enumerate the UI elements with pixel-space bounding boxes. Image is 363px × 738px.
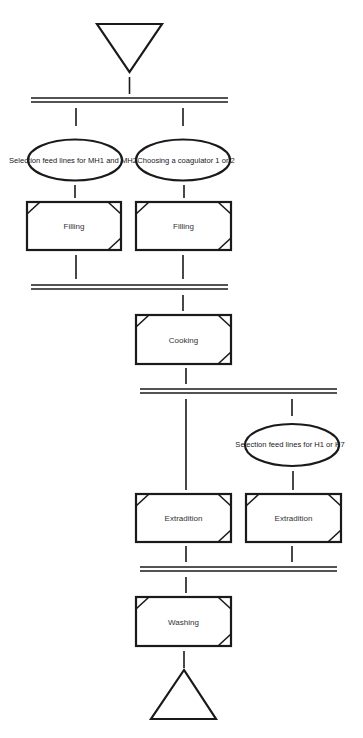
parallel-split-bar-1: [31, 98, 228, 102]
process-flow-diagram: Selection feed lines for MH1 and MH2 Cho…: [0, 0, 363, 738]
start-triangle-icon: [97, 24, 162, 72]
step-box-washing: Washing: [136, 597, 231, 646]
step-label-filling-2: Filling: [173, 222, 194, 231]
step-box-extradition-1: Extradition: [136, 494, 231, 542]
ellipse-label-h: Selection feed lines for H1 or H7: [235, 440, 344, 449]
parallel-join-bar-4: [140, 567, 337, 571]
parallel-join-bar-2: [31, 285, 228, 289]
step-label-washing: Washing: [168, 618, 199, 627]
step-label-filling-1: Filling: [64, 222, 85, 231]
step-label-extradition-1: Extradition: [165, 514, 203, 523]
ellipse-label-coagulator: Choosing a coagulator 1 or 2: [137, 156, 235, 165]
step-label-extradition-2: Extradition: [275, 514, 313, 523]
parallel-split-bar-3: [140, 389, 337, 393]
end-triangle-icon: [151, 670, 216, 719]
step-label-cooking: Cooking: [169, 336, 198, 345]
step-box-cooking: Cooking: [136, 315, 231, 364]
step-box-extradition-2: Extradition: [246, 494, 341, 542]
step-box-filling-1: Filling: [27, 202, 121, 250]
ellipse-label-mh: Selection feed lines for MH1 and MH2: [9, 156, 137, 165]
step-box-filling-2: Filling: [136, 202, 231, 250]
